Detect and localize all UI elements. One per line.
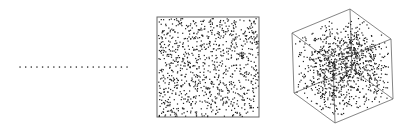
data-point xyxy=(217,66,218,67)
data-point xyxy=(345,66,346,67)
data-point xyxy=(210,107,211,108)
data-point xyxy=(180,85,181,86)
data-point xyxy=(196,113,197,114)
data-point xyxy=(370,54,371,55)
data-point xyxy=(375,90,376,91)
data-point xyxy=(163,52,164,53)
data-point xyxy=(363,21,364,22)
data-point xyxy=(199,81,200,82)
data-point xyxy=(214,67,215,68)
data-point xyxy=(218,31,219,32)
data-point xyxy=(230,76,231,77)
data-point xyxy=(167,105,168,106)
data-point xyxy=(325,68,326,69)
data-point xyxy=(186,81,187,82)
data-point xyxy=(200,21,201,22)
data-point xyxy=(182,84,183,85)
data-point xyxy=(328,50,329,51)
data-point xyxy=(330,32,331,33)
data-point xyxy=(164,58,165,59)
data-point xyxy=(212,101,213,102)
data-point xyxy=(171,38,172,39)
data-point xyxy=(301,52,302,53)
data-point xyxy=(329,87,330,88)
data-point xyxy=(324,50,325,51)
data-point xyxy=(218,76,219,77)
data-point xyxy=(175,52,176,53)
data-point xyxy=(178,55,179,56)
data-point xyxy=(354,36,355,37)
data-point xyxy=(243,33,244,34)
data-point xyxy=(233,65,234,66)
data-point xyxy=(251,82,252,83)
data-point xyxy=(349,99,350,100)
data-point xyxy=(332,28,333,29)
data-point xyxy=(388,67,389,68)
data-point xyxy=(241,99,242,100)
data-point xyxy=(195,76,196,77)
data-point xyxy=(230,33,231,34)
data-point xyxy=(231,35,232,36)
data-point xyxy=(231,110,232,111)
data-point xyxy=(191,78,192,79)
data-point xyxy=(342,80,343,81)
data-point xyxy=(371,58,372,59)
data-point xyxy=(320,38,321,39)
data-point xyxy=(249,103,250,104)
data-point xyxy=(176,114,177,115)
data-point xyxy=(258,86,259,87)
data-point xyxy=(206,88,207,89)
data-point xyxy=(328,55,329,56)
data-point xyxy=(333,55,334,56)
data-point xyxy=(330,73,331,74)
data-point xyxy=(234,47,235,48)
data-point xyxy=(329,107,330,108)
data-point xyxy=(231,83,232,84)
data-point xyxy=(357,89,358,90)
data-point xyxy=(308,65,309,66)
data-point xyxy=(351,65,352,66)
data-point xyxy=(229,26,230,27)
data-point xyxy=(324,35,325,36)
data-point xyxy=(343,56,344,57)
data-point xyxy=(234,51,235,52)
data-point xyxy=(328,84,329,85)
data-point xyxy=(209,88,210,89)
data-point xyxy=(195,49,196,50)
data-point xyxy=(330,68,331,69)
data-point xyxy=(167,73,168,74)
data-point xyxy=(380,96,381,97)
data-point xyxy=(176,66,177,67)
data-point xyxy=(211,94,212,95)
data-point xyxy=(325,31,326,32)
data-point xyxy=(358,18,359,19)
data-point xyxy=(166,25,167,26)
data-point xyxy=(251,24,252,25)
data-point xyxy=(374,98,375,99)
data-point xyxy=(339,102,340,103)
data-point xyxy=(229,84,230,85)
data-point xyxy=(356,69,357,70)
data-point xyxy=(335,43,336,44)
data-point xyxy=(312,53,313,54)
data-point xyxy=(328,107,329,108)
data-point xyxy=(306,88,307,89)
data-point xyxy=(319,82,320,83)
data-point xyxy=(329,91,330,92)
data-point xyxy=(340,81,341,82)
data-point xyxy=(354,35,355,36)
data-point xyxy=(182,61,183,62)
cube-edge xyxy=(335,99,393,123)
data-point xyxy=(362,57,363,58)
data-point xyxy=(327,51,328,52)
data-point xyxy=(305,68,306,69)
data-point xyxy=(180,65,181,66)
data-point xyxy=(355,66,356,67)
data-point xyxy=(327,36,328,37)
data-point xyxy=(348,52,349,53)
data-point xyxy=(183,42,184,43)
data-point xyxy=(160,93,161,94)
data-point xyxy=(359,42,360,43)
data-point xyxy=(377,67,378,68)
data-point xyxy=(247,64,248,65)
